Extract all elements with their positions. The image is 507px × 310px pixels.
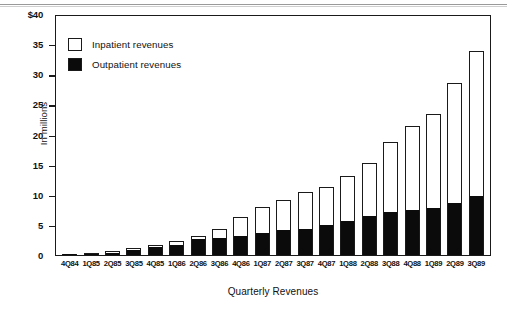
bar-segment-outpatient [427,208,440,255]
y-axis-tick-label: 0 [38,250,43,261]
bar-stack-inpatient [233,217,248,256]
bar-segment-outpatient [234,236,247,255]
bar-segment-outpatient [213,238,226,255]
bar-segment-outpatient [341,221,354,255]
bar-stack-inpatient [148,245,163,256]
legend-item-inpatient: Inpatient revenues [68,38,181,51]
bar-stack-inpatient [62,254,77,256]
bar-stack-inpatient [362,163,377,256]
bar-segment-outpatient [470,196,483,255]
legend-item-outpatient: Outpatient revenues [68,58,181,71]
bar-segment-outpatient [299,229,312,256]
bar-stack-inpatient [340,176,355,256]
y-axis-tick-label: 5 [38,220,43,231]
bar-segment-outpatient [320,225,333,255]
legend-label-inpatient: Inpatient revenues [92,39,174,50]
y-axis-tick-label: 35 [33,39,43,50]
bar-stack-inpatient [383,142,398,256]
x-axis-tick-label: 3Q89 [460,259,492,268]
bar-stack-inpatient [169,241,184,256]
bar-stack-inpatient [126,248,141,256]
bar-stack-inpatient [298,192,313,256]
bar-stack-inpatient [447,83,462,256]
x-axis-title: Quarterly Revenues [55,286,491,297]
stacked-bar-chart: 05101520253035$40 In millions 4Q841Q852Q… [0,0,507,310]
bar-segment-outpatient [256,233,269,255]
bar-stack-inpatient [105,251,120,256]
bar-stack-inpatient [405,126,420,256]
bar-stack-inpatient [191,236,206,256]
bar-segment-outpatient [106,253,119,255]
x-axis-tick-labels: 4Q841Q852Q853Q854Q851Q862Q863Q864Q861Q87… [55,259,491,273]
bar-segment-outpatient [63,254,76,255]
bar-segment-outpatient [363,216,376,255]
chart-legend: Inpatient revenues Outpatient revenues [68,38,181,78]
y-axis-tick-label: $40 [28,9,43,20]
bar-segment-outpatient [406,210,419,255]
bar-stack-inpatient [319,187,334,256]
bar-stack-inpatient [212,229,227,256]
bar-segment-outpatient [277,230,290,255]
bar-stack-inpatient [255,207,270,256]
legend-label-outpatient: Outpatient revenues [92,59,181,70]
bar-stack-inpatient [276,200,291,256]
y-axis-tick-label: 10 [33,190,43,201]
bar-segment-outpatient [192,239,205,255]
bar-segment-outpatient [127,250,140,255]
bar-segment-outpatient [384,212,397,255]
bar-segment-outpatient [170,245,183,255]
bar-segment-outpatient [448,203,461,255]
y-axis-title: In millions [38,79,49,169]
legend-swatch-inpatient-icon [68,38,82,51]
bar-segment-outpatient [149,247,162,255]
legend-swatch-outpatient-icon [68,58,82,71]
bar-segment-outpatient [85,254,98,255]
bar-stack-inpatient [84,253,99,256]
bar-stack-inpatient [426,114,441,256]
bar-stack-inpatient [469,51,484,256]
